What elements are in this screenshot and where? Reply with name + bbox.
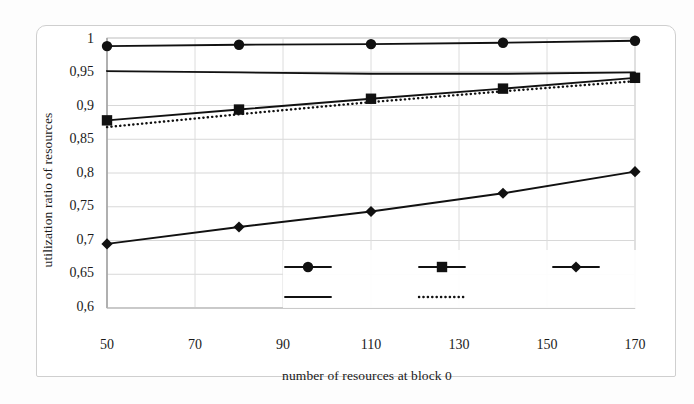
data-point-2-170	[630, 73, 640, 83]
data-point-1-110	[366, 39, 376, 49]
data-point-1-170	[630, 36, 640, 46]
data-point-1-80	[234, 40, 244, 50]
chart-canvas	[0, 0, 694, 404]
data-point-2-140	[498, 83, 508, 93]
legend-marker-2	[437, 262, 447, 272]
data-point-1-140	[498, 38, 508, 48]
chart-figure: utilization ratio of resources number of…	[0, 0, 694, 404]
data-point-1-50	[102, 41, 112, 51]
legend-box	[283, 250, 655, 308]
data-point-2-50	[102, 115, 112, 125]
legend-marker-1	[303, 262, 313, 272]
